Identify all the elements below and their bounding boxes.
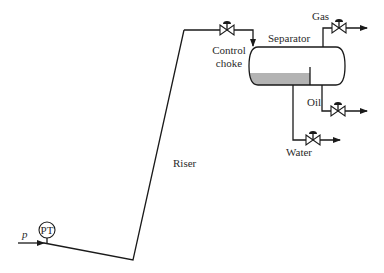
separator-vessel <box>245 47 345 87</box>
flowline-and-riser <box>44 30 184 260</box>
gas-valve <box>332 19 346 33</box>
pressure-transmitter: PT <box>39 222 55 243</box>
riser-separator-diagram: p PT Riser Control choke Separator Gas <box>0 0 384 273</box>
riser-label: Riser <box>173 157 197 169</box>
separator-label: Separator <box>268 32 310 44</box>
oil-label: Oil <box>307 96 321 108</box>
control-choke-label-line2: choke <box>216 57 242 69</box>
pt-label: PT <box>41 224 54 236</box>
water-label: Water <box>286 146 312 158</box>
pressure-label: p <box>21 228 28 240</box>
control-choke-label-line1: Control <box>212 44 246 56</box>
oil-valve <box>331 102 345 116</box>
gas-label: Gas <box>312 10 329 22</box>
control-choke-valve <box>220 21 234 35</box>
water-valve <box>306 131 320 145</box>
